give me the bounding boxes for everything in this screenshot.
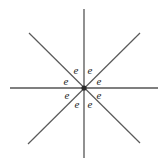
electron-label-left-upper: e xyxy=(64,76,69,87)
electron-label-lower-left-inner: e xyxy=(75,99,80,110)
electron-label-upper-left-inner: e xyxy=(74,65,79,76)
electron-label-lower-right-inner: e xyxy=(88,99,93,110)
center-node xyxy=(81,85,86,90)
electron-label-left-lower: e xyxy=(65,90,70,101)
electron-label-right-lower: e xyxy=(97,90,102,101)
electron-label-right-upper: e xyxy=(97,76,102,87)
electron-label-upper-right-inner: e xyxy=(88,65,93,76)
electron-pair-diagram: e e e e e e e e xyxy=(0,0,168,166)
diagram-canvas xyxy=(0,0,168,166)
